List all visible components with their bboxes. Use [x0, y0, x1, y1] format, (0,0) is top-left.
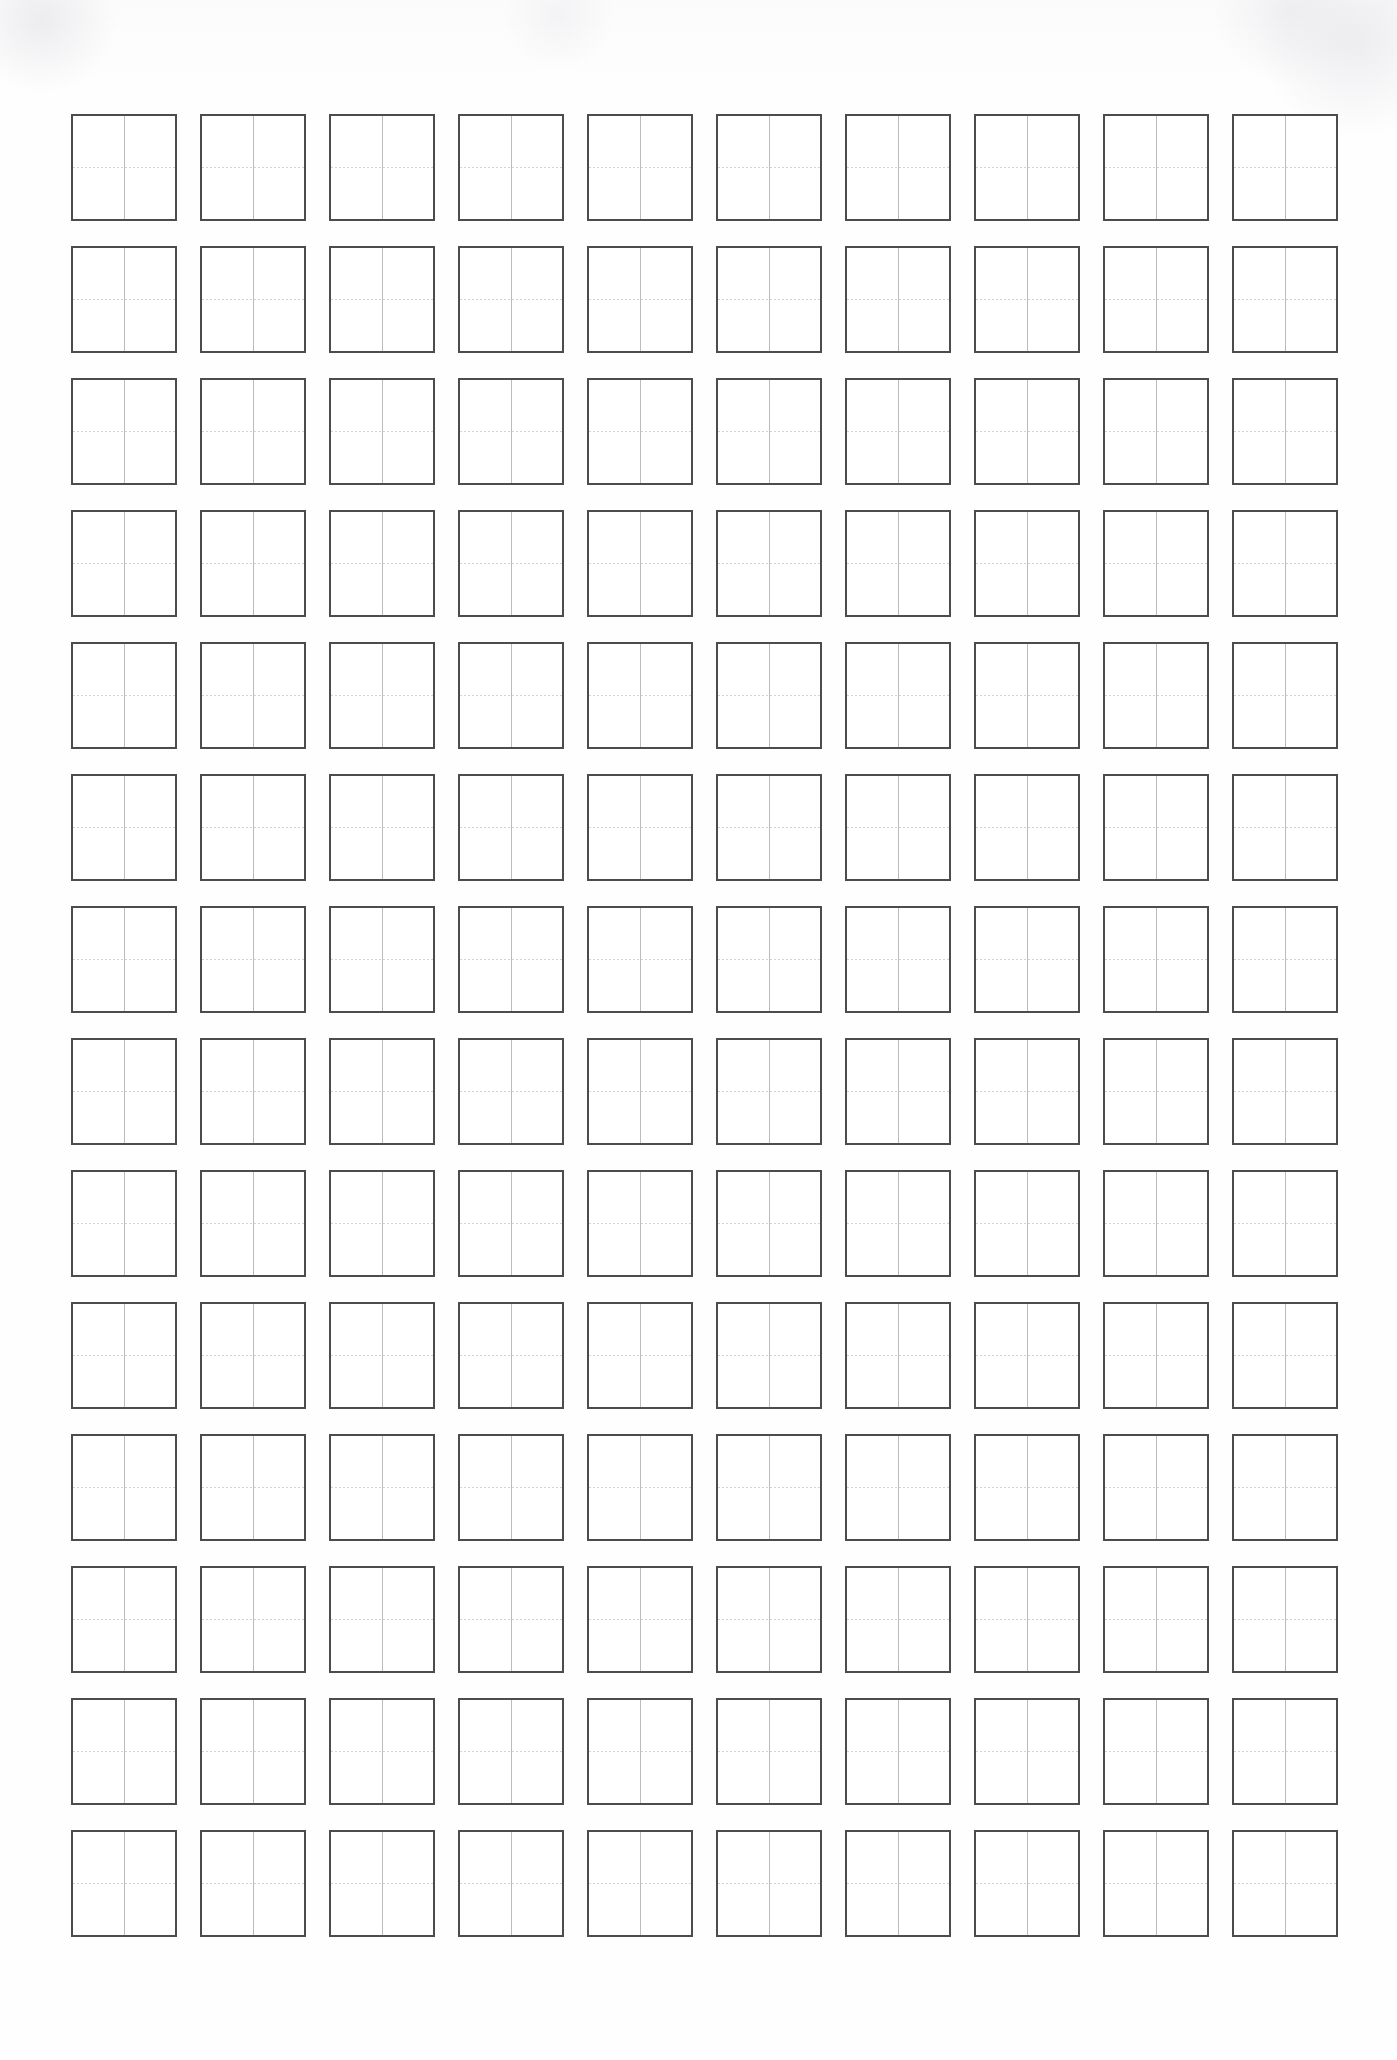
practice-cell[interactable]: [71, 1830, 177, 1937]
practice-cell[interactable]: [458, 1038, 564, 1145]
practice-cell[interactable]: [845, 642, 951, 749]
practice-cell[interactable]: [458, 1302, 564, 1409]
practice-cell[interactable]: [845, 1170, 951, 1277]
practice-cell[interactable]: [458, 1566, 564, 1673]
practice-cell[interactable]: [1232, 1434, 1338, 1541]
practice-cell[interactable]: [329, 1170, 435, 1277]
practice-cell[interactable]: [1232, 114, 1338, 221]
practice-cell[interactable]: [845, 1434, 951, 1541]
practice-cell[interactable]: [716, 1434, 822, 1541]
practice-cell[interactable]: [587, 774, 693, 881]
practice-cell[interactable]: [974, 114, 1080, 221]
practice-cell[interactable]: [71, 114, 177, 221]
practice-cell[interactable]: [458, 774, 564, 881]
practice-cell[interactable]: [845, 1698, 951, 1805]
practice-cell[interactable]: [458, 1170, 564, 1277]
practice-cell[interactable]: [71, 1434, 177, 1541]
practice-cell[interactable]: [200, 1170, 306, 1277]
practice-cell[interactable]: [1103, 378, 1209, 485]
practice-cell[interactable]: [587, 1038, 693, 1145]
practice-cell[interactable]: [716, 114, 822, 221]
practice-cell[interactable]: [200, 1566, 306, 1673]
practice-cell[interactable]: [329, 1566, 435, 1673]
practice-cell[interactable]: [716, 1302, 822, 1409]
practice-cell[interactable]: [71, 378, 177, 485]
practice-cell[interactable]: [1232, 642, 1338, 749]
practice-cell[interactable]: [1103, 246, 1209, 353]
practice-cell[interactable]: [845, 906, 951, 1013]
practice-cell[interactable]: [716, 1038, 822, 1145]
practice-cell[interactable]: [716, 378, 822, 485]
practice-cell[interactable]: [974, 1698, 1080, 1805]
practice-cell[interactable]: [587, 114, 693, 221]
practice-cell[interactable]: [1232, 510, 1338, 617]
practice-cell[interactable]: [845, 1038, 951, 1145]
practice-cell[interactable]: [587, 1302, 693, 1409]
practice-cell[interactable]: [587, 378, 693, 485]
practice-cell[interactable]: [845, 378, 951, 485]
practice-cell[interactable]: [587, 510, 693, 617]
practice-cell[interactable]: [458, 1698, 564, 1805]
practice-cell[interactable]: [974, 906, 1080, 1013]
practice-cell[interactable]: [1103, 774, 1209, 881]
practice-cell[interactable]: [200, 510, 306, 617]
practice-cell[interactable]: [716, 906, 822, 1013]
practice-cell[interactable]: [1103, 906, 1209, 1013]
practice-cell[interactable]: [329, 114, 435, 221]
practice-cell[interactable]: [716, 1698, 822, 1805]
practice-cell[interactable]: [587, 1698, 693, 1805]
practice-cell[interactable]: [200, 1830, 306, 1937]
practice-cell[interactable]: [587, 1170, 693, 1277]
practice-cell[interactable]: [1232, 1698, 1338, 1805]
practice-cell[interactable]: [587, 1434, 693, 1541]
practice-cell[interactable]: [845, 246, 951, 353]
practice-cell[interactable]: [458, 1830, 564, 1937]
practice-cell[interactable]: [329, 510, 435, 617]
practice-cell[interactable]: [71, 1566, 177, 1673]
practice-cell[interactable]: [974, 774, 1080, 881]
practice-cell[interactable]: [716, 510, 822, 617]
practice-cell[interactable]: [974, 510, 1080, 617]
practice-cell[interactable]: [200, 114, 306, 221]
practice-cell[interactable]: [974, 1566, 1080, 1673]
practice-cell[interactable]: [716, 642, 822, 749]
practice-cell[interactable]: [716, 1566, 822, 1673]
practice-cell[interactable]: [1103, 1830, 1209, 1937]
practice-cell[interactable]: [845, 1566, 951, 1673]
practice-cell[interactable]: [71, 642, 177, 749]
practice-cell[interactable]: [587, 642, 693, 749]
practice-cell[interactable]: [587, 1566, 693, 1673]
practice-cell[interactable]: [716, 774, 822, 881]
practice-cell[interactable]: [974, 378, 1080, 485]
practice-cell[interactable]: [845, 114, 951, 221]
practice-cell[interactable]: [458, 114, 564, 221]
practice-cell[interactable]: [974, 246, 1080, 353]
practice-cell[interactable]: [974, 642, 1080, 749]
practice-cell[interactable]: [458, 378, 564, 485]
practice-cell[interactable]: [329, 246, 435, 353]
practice-cell[interactable]: [200, 906, 306, 1013]
practice-cell[interactable]: [1103, 1170, 1209, 1277]
practice-cell[interactable]: [845, 510, 951, 617]
practice-cell[interactable]: [71, 510, 177, 617]
practice-cell[interactable]: [200, 1038, 306, 1145]
practice-cell[interactable]: [974, 1434, 1080, 1541]
practice-cell[interactable]: [329, 1038, 435, 1145]
practice-cell[interactable]: [1232, 378, 1338, 485]
practice-cell[interactable]: [845, 1830, 951, 1937]
practice-cell[interactable]: [1103, 1038, 1209, 1145]
practice-cell[interactable]: [1232, 774, 1338, 881]
practice-cell[interactable]: [974, 1170, 1080, 1277]
practice-cell[interactable]: [1103, 510, 1209, 617]
practice-cell[interactable]: [329, 906, 435, 1013]
practice-cell[interactable]: [71, 774, 177, 881]
practice-cell[interactable]: [71, 246, 177, 353]
practice-cell[interactable]: [329, 1434, 435, 1541]
practice-cell[interactable]: [71, 1698, 177, 1805]
practice-cell[interactable]: [845, 774, 951, 881]
practice-cell[interactable]: [329, 1698, 435, 1805]
practice-cell[interactable]: [1103, 1566, 1209, 1673]
practice-cell[interactable]: [1103, 114, 1209, 221]
practice-cell[interactable]: [458, 642, 564, 749]
practice-cell[interactable]: [1232, 906, 1338, 1013]
